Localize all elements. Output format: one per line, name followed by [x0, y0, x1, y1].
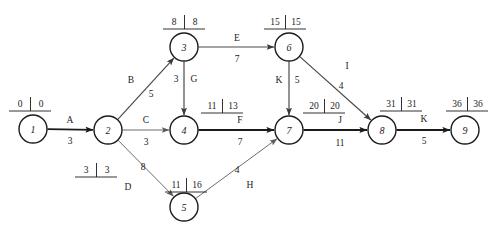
latest-time-node-7: 20 — [330, 101, 340, 111]
node-number-9: 9 — [463, 125, 468, 136]
edge-label-activity-b: B — [128, 75, 134, 85]
time-tag-node-6: 1515 — [264, 15, 306, 29]
edge-label-duration-i: 4 — [339, 81, 344, 91]
time-tag-node-1: 00 — [9, 97, 51, 111]
edge-label-duration-g: 3 — [174, 74, 179, 84]
node-number-8: 8 — [380, 125, 385, 136]
edge-label-activity-c: C — [143, 115, 149, 125]
edge-label-duration-k2: 5 — [422, 136, 427, 146]
time-tag-node-5: 1116 — [165, 178, 207, 192]
activity-network-svg: 123456789 003388111311161515202031313636… — [0, 0, 492, 238]
latest-time-node-3: 8 — [193, 17, 198, 27]
time-tag-node-2: 33 — [75, 163, 117, 177]
edge-b-2-3 — [118, 58, 174, 119]
edge-labels-layer: A3B5C3D8E7G3F7H4K5I4J11K5 — [67, 33, 428, 192]
edge-label-activity-j: J — [338, 115, 342, 125]
edge-label-activity-d: D — [125, 182, 132, 192]
node-time-tags-layer: 003388111311161515202031313636 — [9, 15, 488, 192]
latest-time-node-9: 36 — [473, 99, 483, 109]
edge-label-activity-i: I — [345, 61, 348, 71]
node-number-3: 3 — [181, 42, 187, 53]
edge-label-duration-f: 7 — [238, 137, 243, 147]
latest-time-node-2: 3 — [105, 165, 110, 175]
edge-label-duration-h: 4 — [235, 165, 240, 175]
earliest-time-node-2: 3 — [84, 165, 89, 175]
time-tag-node-7: 2020 — [303, 99, 345, 113]
node-number-5: 5 — [182, 202, 187, 213]
edge-label-activity-a: A — [67, 115, 74, 125]
latest-time-node-6: 15 — [291, 17, 301, 27]
edge-label-duration-a: 3 — [68, 136, 73, 146]
time-tag-node-8: 3131 — [380, 97, 422, 111]
edge-label-activity-k1: K — [276, 75, 283, 85]
edge-label-duration-d: 8 — [141, 162, 146, 172]
earliest-time-node-7: 20 — [309, 101, 319, 111]
edge-label-duration-c: 3 — [144, 137, 149, 147]
node-number-6: 6 — [287, 42, 292, 53]
earliest-time-node-8: 31 — [386, 99, 396, 109]
node-number-1: 1 — [31, 124, 36, 135]
earliest-time-node-6: 15 — [270, 17, 280, 27]
network-diagram-canvas: 123456789 003388111311161515202031313636… — [0, 0, 492, 238]
time-tag-node-4: 1113 — [201, 99, 243, 113]
nodes-layer: 123456789 — [19, 33, 479, 221]
time-tag-node-3: 88 — [163, 15, 205, 29]
earliest-time-node-3: 8 — [172, 17, 177, 27]
edge-label-activity-f: F — [237, 115, 242, 125]
latest-time-node-4: 13 — [228, 101, 238, 111]
edge-label-activity-g: G — [191, 74, 198, 84]
edge-label-activity-e: E — [234, 33, 240, 43]
edge-label-duration-e: 7 — [235, 54, 240, 64]
earliest-time-node-9: 36 — [452, 99, 462, 109]
edge-label-activity-h: H — [247, 180, 254, 190]
earliest-time-node-1: 0 — [18, 99, 23, 109]
latest-time-node-1: 0 — [39, 99, 44, 109]
time-tag-node-9: 3636 — [446, 97, 488, 111]
edge-a-1-2 — [47, 129, 93, 130]
edge-label-duration-j: 11 — [335, 138, 344, 148]
edge-label-duration-k1: 5 — [295, 75, 300, 85]
latest-time-node-5: 16 — [192, 180, 202, 190]
earliest-time-node-4: 11 — [207, 101, 216, 111]
earliest-time-node-5: 11 — [171, 180, 180, 190]
edge-label-activity-k2: K — [421, 114, 428, 124]
node-number-2: 2 — [106, 125, 111, 136]
node-number-4: 4 — [182, 125, 187, 136]
edge-label-duration-b: 5 — [149, 89, 154, 99]
latest-time-node-8: 31 — [407, 99, 417, 109]
